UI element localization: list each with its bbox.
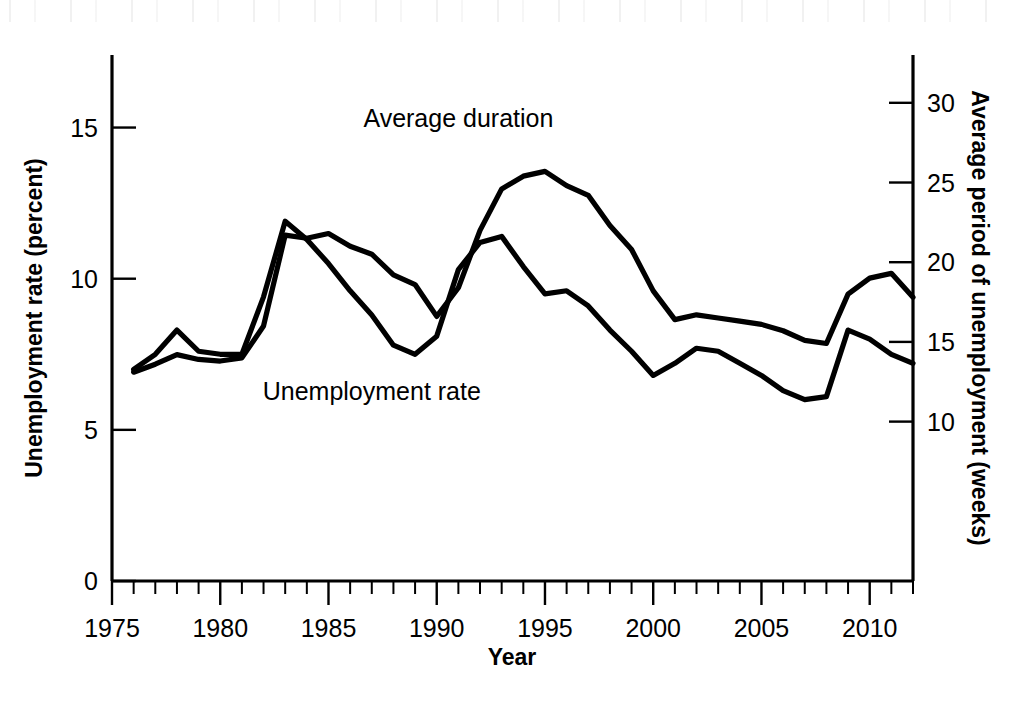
series-annotation-unemployment-rate: Unemployment rate (263, 377, 481, 405)
x-axis-tick-labels: 19751980198519901995200020052010 (84, 614, 897, 642)
line-unemployment-rate (134, 221, 913, 399)
unemployment-duration-line-chart: 051015 1015202530 1975198019851990199520… (0, 0, 1009, 707)
y-axis-right-tick-label: 30 (927, 89, 955, 117)
y-axis-left-tick-label: 15 (70, 114, 98, 142)
y-axis-left-tick-label: 0 (84, 567, 98, 595)
y-axis-right-tick-label: 15 (927, 328, 955, 356)
x-axis-tick-label: 1995 (517, 614, 573, 642)
series-annotation-average-duration: Average duration (363, 104, 553, 132)
x-axis-major-ticks (112, 581, 870, 605)
y-axis-right-tick-label: 25 (927, 169, 955, 197)
y-axis-left-ticks (112, 128, 136, 581)
line-average-duration (134, 171, 913, 372)
y-axis-left-tick-labels: 051015 (70, 114, 98, 595)
y-axis-left-tick-label: 10 (70, 265, 98, 293)
chart-figure: 051015 1015202530 1975198019851990199520… (0, 0, 1009, 707)
y-axis-right-tick-label: 20 (927, 248, 955, 276)
x-axis-tick-label: 1975 (84, 614, 140, 642)
x-axis-minor-ticks (134, 581, 913, 594)
x-axis-tick-label: 2005 (734, 614, 790, 642)
y-axis-right-title: Average period of unemployment (weeks) (967, 90, 993, 545)
y-axis-left-tick-label: 5 (84, 416, 98, 444)
x-axis-tick-label: 1980 (192, 614, 248, 642)
x-axis-tick-label: 2010 (842, 614, 898, 642)
y-axis-right-tick-labels: 1015202530 (927, 89, 955, 436)
y-axis-right-tick-label: 10 (927, 408, 955, 436)
x-axis-title: Year (488, 644, 537, 670)
y-axis-right-ticks (889, 103, 913, 422)
x-axis-tick-label: 1990 (409, 614, 465, 642)
x-axis-tick-label: 1985 (301, 614, 357, 642)
x-axis-tick-label: 2000 (625, 614, 681, 642)
y-axis-left-title: Unemployment rate (percent) (21, 158, 47, 478)
